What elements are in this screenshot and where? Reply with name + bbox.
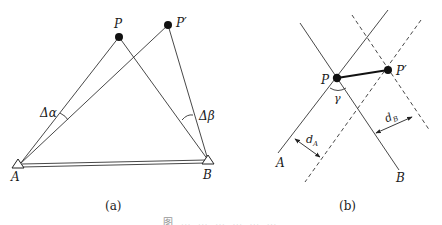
point-p-dot [115,33,123,41]
label-p: P [113,17,123,31]
station-b-icon [202,155,214,164]
panel-a-caption: (a) [105,199,122,213]
label-p-prime: P′ [175,16,187,30]
figure-caption: 图 … … … … … … [0,214,442,225]
line-b-to-p-prime [168,25,208,160]
label-a: A [275,156,285,170]
line-pa [278,10,388,153]
point-p-prime-dot [384,66,392,74]
point-p-prime-dot [164,21,172,29]
label-p-prime: P′ [395,64,407,78]
panel-a: P P′ A B Δα Δβ (a) [10,16,215,213]
panel-b: P P′ γ A B dA dB (b) [275,10,430,213]
label-a: A [10,170,20,184]
angle-arc-delta-beta [182,115,193,120]
point-p-dot [333,74,341,82]
segment-p-p-prime [337,70,388,78]
line-b-to-p [119,37,208,160]
label-d-b: dB [382,108,399,127]
label-b: B [202,168,212,182]
label-d-a: dA [306,133,318,148]
panel-b-caption: (b) [339,199,356,213]
diagram-canvas: P P′ A B Δα Δβ (a) P P′ γ A B dA dB (b) [0,0,442,225]
label-delta-alpha: Δα [39,106,57,120]
station-a-icon [12,159,24,168]
label-delta-beta: Δβ [198,109,215,123]
label-b: B [395,171,405,185]
dashed-line-parallel-pa [305,20,421,182]
line-a-to-p-prime [20,25,168,164]
label-p: P [320,73,330,87]
line-a-to-p [20,37,119,164]
label-gamma: γ [334,92,341,105]
angle-arc-delta-alpha [60,113,68,120]
